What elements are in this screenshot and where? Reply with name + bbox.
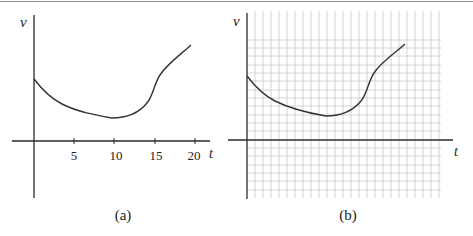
- panel-b: v t: [228, 11, 459, 199]
- panel-a: 5 10 15 20 v t: [12, 14, 214, 198]
- x-axis-label-b: t: [454, 144, 459, 159]
- tick-label-10: 10: [110, 148, 123, 163]
- tick-label-15: 15: [150, 148, 163, 163]
- tick-label-5: 5: [71, 148, 78, 163]
- y-axis-label-b: v: [233, 13, 240, 29]
- grid-b: [247, 11, 441, 198]
- caption-b: (b): [328, 207, 368, 224]
- caption-a: (a): [103, 207, 143, 224]
- tick-label-20: 20: [188, 148, 201, 163]
- y-axis-label-a: v: [20, 14, 27, 30]
- figure-canvas: 5 10 15 20 v t: [0, 0, 473, 236]
- velocity-curve-a: [34, 45, 191, 118]
- x-axis-label-a: t: [209, 146, 214, 161]
